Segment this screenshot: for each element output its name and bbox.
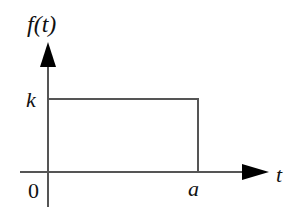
x-axis-label: t — [276, 162, 283, 187]
pulse-signal — [48, 99, 198, 172]
origin-label: 0 — [28, 178, 39, 203]
x-axis-arrow-icon — [242, 164, 269, 180]
y-axis-label: f(t) — [27, 11, 56, 37]
pulse-diagram: f(t) k 0 a t — [0, 0, 299, 217]
y-axis-arrow-icon — [40, 42, 56, 67]
amplitude-label: k — [26, 87, 37, 112]
end-label: a — [188, 176, 199, 201]
